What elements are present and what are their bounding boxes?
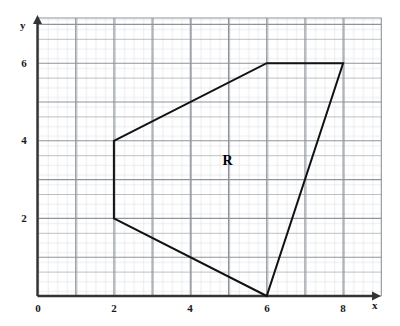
region-label-R: R — [223, 154, 233, 168]
graph-figure: 0 2 4 6 8 2 4 6 x y R — [0, 0, 400, 326]
x-tick-label-2: 2 — [106, 303, 122, 314]
y-tick-label-2: 2 — [16, 213, 32, 224]
grid-area — [38, 18, 382, 296]
coordinate-plane — [0, 0, 400, 326]
y-tick-label-6: 6 — [16, 58, 32, 69]
y-tick-label-4: 4 — [16, 135, 32, 146]
x-axis-label: x — [372, 300, 378, 311]
x-tick-label-8: 8 — [335, 303, 351, 314]
y-axis-label: y — [20, 20, 26, 31]
x-tick-label-6: 6 — [259, 303, 275, 314]
x-tick-label-0: 0 — [30, 303, 46, 314]
x-tick-label-4: 4 — [182, 303, 198, 314]
